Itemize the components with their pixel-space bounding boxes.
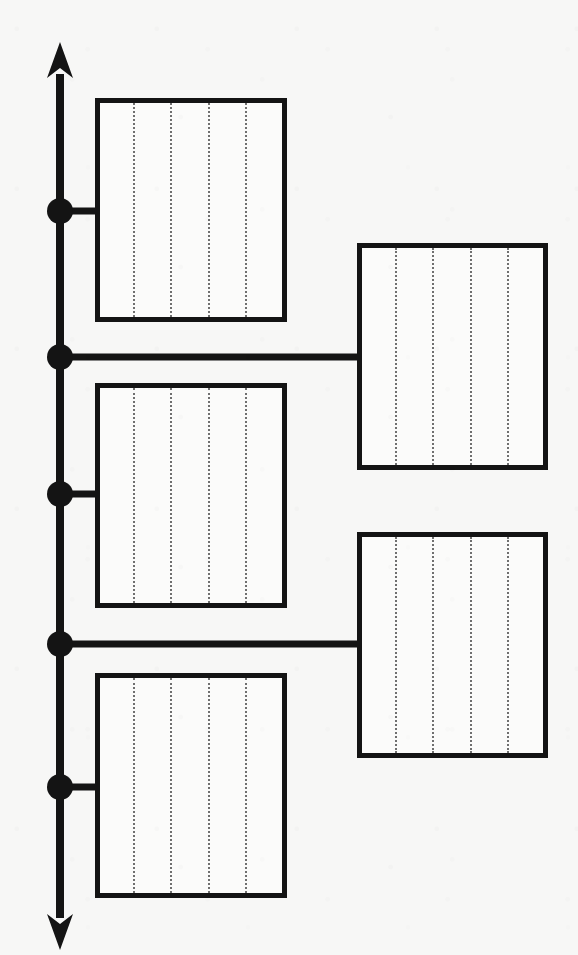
block-dotted-stripe xyxy=(170,388,172,603)
axis-node-dot[interactable] xyxy=(47,344,73,370)
block-stripe-group xyxy=(100,388,282,603)
block-dotted-stripe xyxy=(395,537,397,753)
block-dotted-stripe xyxy=(208,388,210,603)
block-right-lower[interactable] xyxy=(357,532,548,758)
block-dotted-stripe xyxy=(432,248,434,465)
block-dotted-stripe xyxy=(133,103,135,317)
block-dotted-stripe xyxy=(470,537,472,753)
block-dotted-stripe xyxy=(470,248,472,465)
block-right-upper[interactable] xyxy=(357,243,548,470)
axis-node-dot[interactable] xyxy=(47,631,73,657)
block-dotted-stripe xyxy=(507,537,509,753)
axis-node-dot[interactable] xyxy=(47,198,73,224)
block-dotted-stripe xyxy=(245,678,247,893)
block-left-lower[interactable] xyxy=(95,673,287,898)
block-dotted-stripe xyxy=(208,103,210,317)
axis-arrowhead-down-icon xyxy=(47,914,73,950)
block-dotted-stripe xyxy=(170,678,172,893)
axis-arrowhead-up-icon xyxy=(47,42,73,78)
block-stripe-group xyxy=(362,248,543,465)
block-left-upper[interactable] xyxy=(95,98,287,322)
axis-node-dot[interactable] xyxy=(47,774,73,800)
block-stripe-group xyxy=(362,537,543,753)
block-dotted-stripe xyxy=(133,388,135,603)
block-dotted-stripe xyxy=(395,248,397,465)
block-dotted-stripe xyxy=(507,248,509,465)
diagram-linework xyxy=(0,0,578,955)
block-dotted-stripe xyxy=(245,103,247,317)
block-dotted-stripe xyxy=(245,388,247,603)
diagram-canvas xyxy=(0,0,578,955)
block-dotted-stripe xyxy=(208,678,210,893)
block-stripe-group xyxy=(100,103,282,317)
block-dotted-stripe xyxy=(432,537,434,753)
block-stripe-group xyxy=(100,678,282,893)
block-left-middle[interactable] xyxy=(95,383,287,608)
block-dotted-stripe xyxy=(170,103,172,317)
block-dotted-stripe xyxy=(133,678,135,893)
axis-node-dot[interactable] xyxy=(47,481,73,507)
